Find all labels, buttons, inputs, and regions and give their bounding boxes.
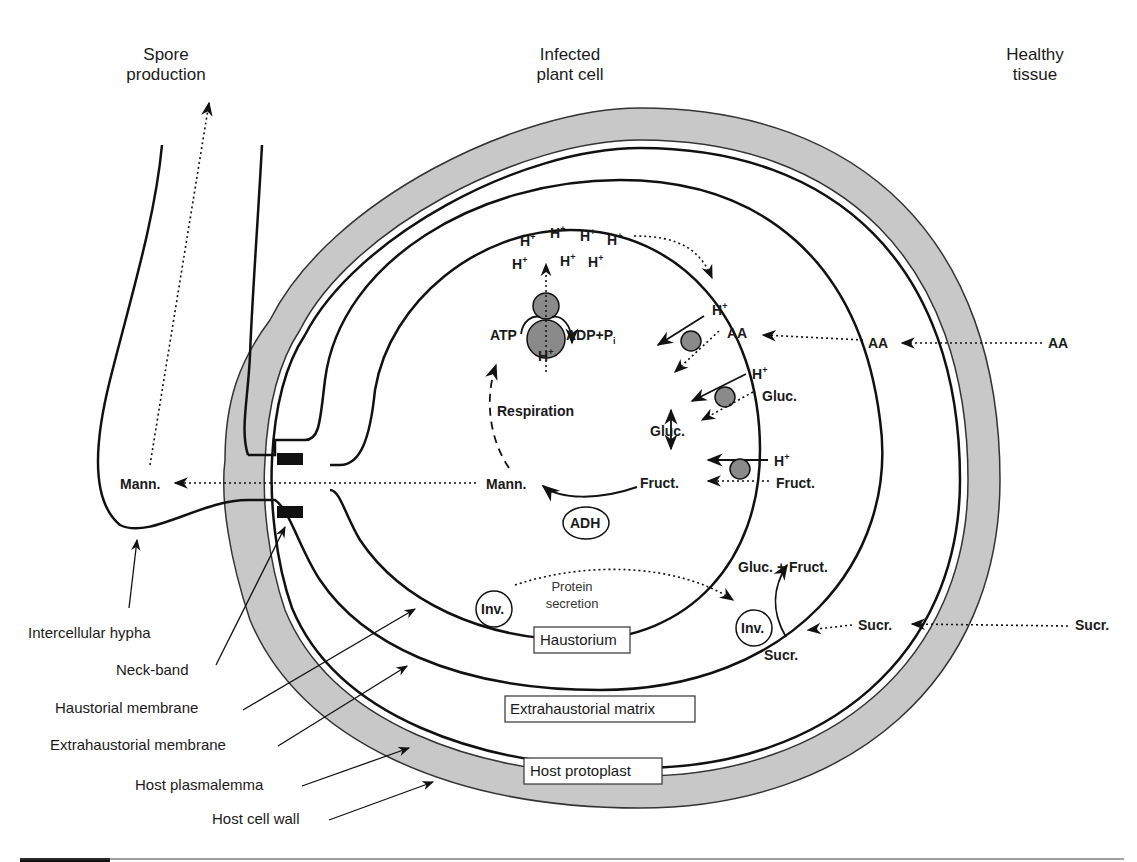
- aa-matrix-label: AA: [868, 336, 888, 350]
- aa-inner-label: AA: [727, 326, 747, 340]
- sucr-healthy-label: Sucr.: [1075, 618, 1109, 632]
- neck-band-bottom: [277, 506, 303, 518]
- region-infected-plant-cell: Infected plant cell: [536, 46, 603, 83]
- fruct-outer-label: Fruct.: [776, 476, 815, 490]
- aa-healthy-label: AA: [1048, 336, 1068, 350]
- region-healthy-tissue: Healthy tissue: [1006, 46, 1064, 83]
- infected-line2: plant cell: [536, 66, 603, 83]
- proton-label-gluc: H+: [752, 366, 767, 381]
- neck-band-label: Neck-band: [116, 662, 189, 677]
- adh-label: ADH: [570, 516, 600, 530]
- proton-label: H+: [607, 232, 622, 247]
- host-protoplast-label: Host protoplast: [530, 763, 631, 778]
- inv-haustorium-label: Inv.: [481, 602, 504, 616]
- proton-label-aa: H+: [712, 302, 727, 317]
- extrahaustorial-membrane-label: Extrahaustorial membrane: [50, 737, 226, 752]
- sucr-protoplast-label: Sucr.: [858, 618, 892, 632]
- proton-label: H+: [560, 253, 575, 268]
- proton-label: H+: [550, 225, 565, 240]
- atp-label: ATP: [490, 328, 517, 342]
- proton-label-inside: H+: [538, 348, 553, 363]
- proton-label: H+: [580, 228, 595, 243]
- gluc-inner-label: Gluc.: [650, 424, 685, 438]
- spore-line2: production: [126, 66, 205, 83]
- intercellular-hypha-label: Intercellular hypha: [28, 625, 151, 640]
- proton-label-fruct: H+: [774, 453, 789, 468]
- sucr-matrix-label: Sucr.: [764, 648, 798, 662]
- healthy-line2: tissue: [1006, 66, 1064, 83]
- infected-line1: Infected: [536, 46, 603, 63]
- respiration-label: Respiration: [497, 404, 574, 418]
- region-spore-production: Spore production: [126, 46, 205, 83]
- mann-haustorium-label: Mann.: [486, 477, 526, 491]
- protein-secretion-label: Protein secretion: [546, 580, 599, 610]
- host-plasmalemma-label: Host plasmalemma: [135, 777, 263, 792]
- healthy-line1: Healthy: [1006, 46, 1064, 63]
- spore-production-arrow: [150, 103, 209, 465]
- gluc-outer-label: Gluc.: [762, 389, 797, 403]
- proton-label: H+: [588, 254, 603, 269]
- proton-label: H+: [520, 233, 535, 248]
- gluc-fruct-label: Gluc. + Fruct.: [738, 560, 828, 574]
- haustorial-membrane-label: Haustorial membrane: [55, 700, 198, 715]
- host-cell-wall-label: Host cell wall: [212, 811, 300, 826]
- proton-label: H+: [512, 256, 527, 271]
- spore-line1: Spore: [126, 46, 205, 63]
- extrahaustorial-matrix-label: Extrahaustorial matrix: [510, 701, 655, 716]
- haustorium-label: Haustorium: [540, 632, 617, 647]
- mann-hypha-label: Mann.: [120, 477, 160, 491]
- fruct-inner-label: Fruct.: [640, 476, 679, 490]
- adp-label: ADP+Pi: [566, 328, 616, 346]
- haustorium-diagram: [0, 0, 1137, 862]
- inv-matrix-label: Inv.: [741, 621, 764, 635]
- neck-band-top: [277, 453, 303, 465]
